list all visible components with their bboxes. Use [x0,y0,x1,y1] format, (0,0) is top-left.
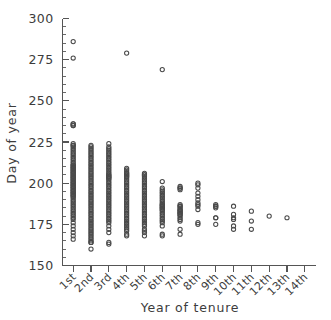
data-point [231,204,235,208]
y-tick-label: 150 [28,258,53,273]
x-tick-labels: 1st2nd3rd4th5th6th7th8th9th10th11th12th1… [57,270,311,298]
y-axis-title: Day of year [4,102,19,183]
data-point [249,227,253,231]
data-point [249,209,253,213]
y-axis-ticks [63,19,69,266]
data-point [71,56,75,60]
y-tick-label: 250 [28,93,53,108]
axes [63,19,316,266]
data-point [160,179,164,183]
y-tick-label: 200 [28,176,53,191]
y-tick-label: 225 [28,135,53,150]
y-tick-label: 300 [28,11,53,26]
data-point [249,219,253,223]
data-point [125,51,129,55]
data-point [89,247,93,251]
data-point [214,216,218,220]
data-point [285,216,289,220]
data-point [178,232,182,236]
y-tick-label: 275 [28,52,53,67]
plot-canvas: 150175200225250275300 1st2nd3rd4th5th6th… [0,0,331,320]
x-axis-title: Year of tenure [140,300,240,315]
data-point [71,39,75,43]
scatter-plot-figure: 150175200225250275300 1st2nd3rd4th5th6th… [0,0,331,320]
y-tick-labels: 150175200225250275300 [28,11,53,273]
data-point [267,214,271,218]
data-points [71,39,289,251]
data-point [160,67,164,71]
x-axis-ticks [73,266,305,272]
y-tick-label: 175 [28,217,53,232]
data-point [214,222,218,226]
data-point [178,227,182,231]
